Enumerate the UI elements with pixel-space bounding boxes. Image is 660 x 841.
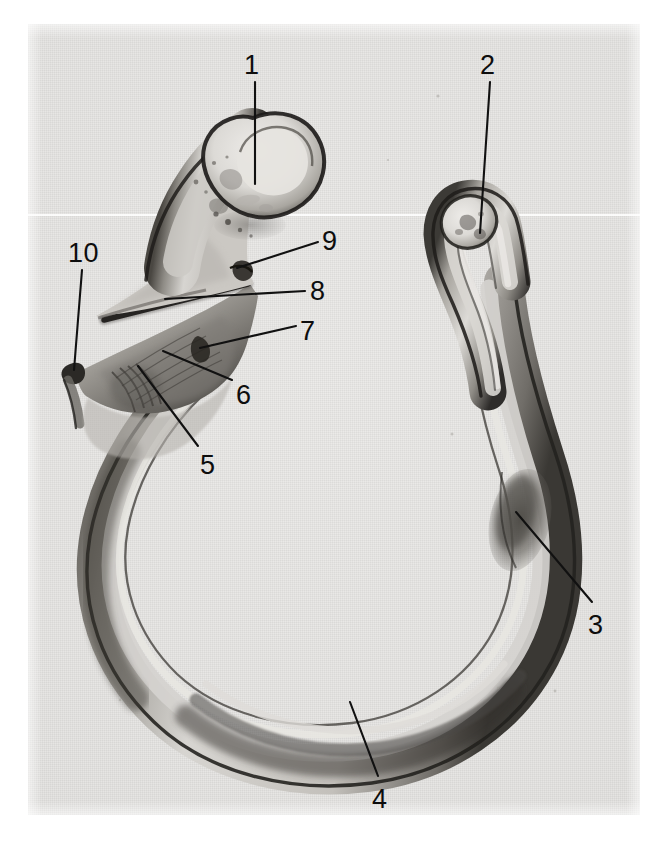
callout-label-1: 1	[244, 52, 260, 79]
callout-label-10: 10	[68, 240, 99, 267]
callout-label-2: 2	[480, 52, 496, 79]
callout-label-9: 9	[322, 228, 338, 255]
bone-illustration	[0, 0, 660, 841]
callout-label-7: 7	[300, 318, 316, 345]
figure-root: 12345678910	[0, 0, 660, 841]
callout-label-6: 6	[236, 382, 252, 409]
leader-line-9	[237, 242, 318, 268]
leader-line-10	[74, 270, 82, 370]
callout-label-8: 8	[310, 278, 326, 305]
callout-label-4: 4	[372, 786, 388, 813]
bone-proximal-region	[61, 113, 324, 459]
specimen-group	[61, 82, 592, 786]
callout-label-3: 3	[588, 612, 604, 639]
callout-label-5: 5	[200, 452, 216, 479]
